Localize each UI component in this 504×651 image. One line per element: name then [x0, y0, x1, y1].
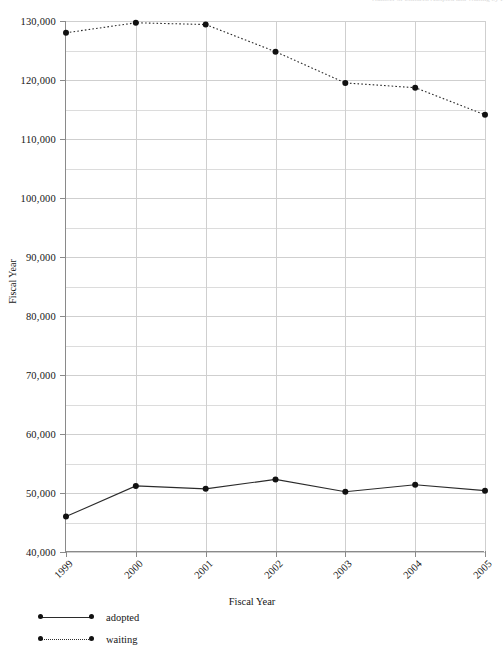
data-point-waiting-2004[interactable] [412, 85, 418, 91]
legend-marker-icon [89, 614, 94, 619]
y-axis-tick-label: 80,000 [0, 311, 56, 322]
x-axis-tick-label: 2002 [251, 558, 284, 591]
data-point-adopted-2004[interactable] [412, 482, 418, 488]
data-point-adopted-2000[interactable] [133, 483, 139, 489]
data-point-adopted-2005[interactable] [482, 488, 488, 494]
y-axis-tick-label: 40,000 [0, 547, 56, 558]
x-axis-tick-label: 2001 [181, 558, 214, 591]
data-point-waiting-2000[interactable] [133, 20, 139, 26]
x-axis-tick-label: 2000 [111, 558, 144, 591]
series-layer [66, 21, 485, 552]
data-point-adopted-2002[interactable] [273, 476, 279, 482]
line-chart: Number of Children Adopted and Waiting b… [0, 0, 504, 651]
data-point-waiting-2003[interactable] [342, 80, 348, 86]
series-line-adopted [66, 479, 485, 516]
legend-swatch-waiting [38, 634, 94, 644]
legend-item-adopted[interactable]: adopted [38, 606, 258, 628]
clipped-chart-title: Number of Children Adopted and Waiting b… [372, 0, 504, 5]
legend-marker-icon [38, 614, 43, 619]
chart-legend: adoptedwaiting [38, 606, 258, 650]
x-axis-tick-label: 2005 [461, 558, 494, 591]
data-point-adopted-1999[interactable] [63, 514, 69, 520]
data-point-adopted-2001[interactable] [203, 486, 209, 492]
data-point-adopted-2003[interactable] [342, 489, 348, 495]
y-axis-tick-label: 70,000 [0, 370, 56, 381]
y-axis-title: Fiscal Year [7, 259, 18, 303]
x-axis-tick-label: 1999 [42, 558, 75, 591]
y-axis-tick-label: 130,000 [0, 16, 56, 27]
legend-line-icon [41, 617, 91, 618]
legend-label: waiting [106, 634, 138, 645]
series-line-waiting [66, 23, 485, 115]
data-point-waiting-2002[interactable] [273, 49, 279, 55]
x-axis-tick [485, 551, 486, 557]
plot-area [65, 21, 484, 552]
data-point-waiting-1999[interactable] [63, 30, 69, 36]
data-point-waiting-2001[interactable] [203, 22, 209, 28]
legend-item-waiting[interactable]: waiting [38, 628, 258, 650]
legend-label: adopted [106, 612, 139, 623]
gridline-v [485, 21, 486, 552]
y-axis-tick-label: 120,000 [0, 75, 56, 86]
legend-marker-icon [38, 636, 43, 641]
x-axis-tick-label: 2004 [391, 558, 424, 591]
legend-marker-icon [89, 636, 94, 641]
legend-line-icon [41, 639, 91, 640]
y-axis-tick-label: 100,000 [0, 193, 56, 204]
legend-swatch-adopted [38, 612, 94, 622]
y-axis-tick-label: 60,000 [0, 429, 56, 440]
y-axis-tick-label: 110,000 [0, 134, 56, 145]
x-axis-tick-label: 2003 [321, 558, 354, 591]
y-axis-tick-label: 50,000 [0, 488, 56, 499]
data-point-waiting-2005[interactable] [482, 112, 488, 118]
